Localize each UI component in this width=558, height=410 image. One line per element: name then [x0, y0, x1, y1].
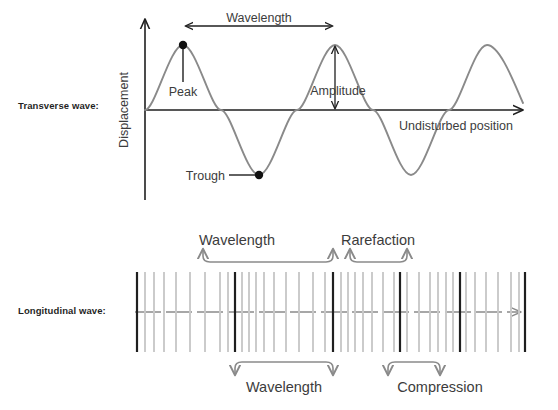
- peak-marker-dot: [179, 41, 187, 49]
- wave-diagram-canvas: Wavelength Amplitude Peak Trough Undistu…: [0, 0, 558, 410]
- trough-marker-dot: [255, 171, 263, 179]
- peak-label: Peak: [169, 85, 198, 99]
- compression-brace: [388, 362, 440, 374]
- compression-label: Compression: [397, 379, 482, 395]
- amplitude-label: Amplitude: [310, 84, 366, 98]
- longitudinal-wavelength-bottom-label: Wavelength: [246, 379, 322, 395]
- rarefaction-label: Rarefaction: [341, 232, 415, 248]
- displacement-axis-label: Displacement: [117, 72, 131, 148]
- longitudinal-wavelength-top-label: Wavelength: [199, 232, 275, 248]
- trough-label: Trough: [186, 169, 225, 183]
- transverse-wave-panel: Wavelength Amplitude Peak Trough Undistu…: [117, 11, 523, 200]
- longitudinal-wave-panel: Wavelength Rarefaction Wavelength Compre…: [135, 232, 525, 395]
- rarefaction-brace: [350, 250, 407, 262]
- longitudinal-wavelength-bottom-brace: [235, 362, 333, 374]
- wave-diagram: Transverse wave: Longitudinal wave:: [0, 0, 558, 410]
- undisturbed-position-label: Undisturbed position: [399, 119, 513, 133]
- transverse-wavelength-label: Wavelength: [226, 11, 292, 25]
- longitudinal-wavelength-top-brace: [203, 250, 333, 262]
